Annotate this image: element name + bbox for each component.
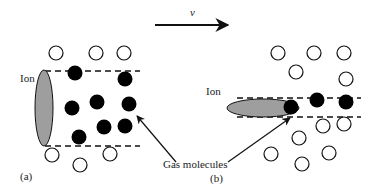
hollow-molecule xyxy=(103,147,117,161)
filled-molecule xyxy=(90,95,105,110)
filled-molecule xyxy=(68,66,83,81)
hollow-molecule xyxy=(322,146,336,160)
filled-molecule xyxy=(339,95,354,110)
filled-molecules-b xyxy=(284,93,354,115)
ion-label-b: Ion xyxy=(206,85,221,97)
hollow-molecule xyxy=(316,119,330,133)
filled-molecule xyxy=(122,97,137,112)
hollow-molecules-a xyxy=(45,46,131,172)
hollow-molecule xyxy=(89,46,103,60)
hollow-molecule xyxy=(337,117,351,131)
filled-molecules-a xyxy=(65,66,137,145)
hollow-molecule xyxy=(295,157,309,171)
filled-molecule xyxy=(118,72,133,87)
filled-molecule xyxy=(72,130,87,145)
ion-disc-a xyxy=(35,70,53,146)
ion-label-a: Ion xyxy=(20,72,35,84)
panel-b-label: (b) xyxy=(210,172,223,185)
panel-b: Ion (b) xyxy=(206,46,361,185)
hollow-molecule xyxy=(337,46,351,60)
velocity-arrow: v xyxy=(155,6,228,25)
hollow-molecule xyxy=(289,65,303,79)
hollow-molecule xyxy=(307,46,321,60)
pointer-arrow xyxy=(137,116,176,162)
hollow-molecule xyxy=(117,46,131,60)
hollow-molecule xyxy=(271,46,285,60)
pointer-arrow xyxy=(228,118,290,162)
hollow-molecule xyxy=(264,147,278,161)
hollow-molecule xyxy=(45,148,59,162)
hollow-molecule xyxy=(73,158,87,172)
filled-molecule xyxy=(97,120,112,135)
hollow-molecule xyxy=(49,46,63,60)
velocity-label: v xyxy=(190,6,195,18)
panel-a-label: (a) xyxy=(20,170,33,183)
ion-gas-collision-diagram: v Ion (a) Ion (b) Gas molecules xyxy=(0,0,381,193)
filled-molecule xyxy=(310,93,325,108)
filled-molecule xyxy=(118,119,133,134)
filled-molecule xyxy=(284,100,299,115)
filled-molecule xyxy=(65,101,80,116)
panel-a: Ion (a) xyxy=(20,46,140,183)
hollow-molecule xyxy=(339,72,353,86)
gas-molecules-label: Gas molecules xyxy=(163,158,227,170)
hollow-molecule xyxy=(292,131,306,145)
